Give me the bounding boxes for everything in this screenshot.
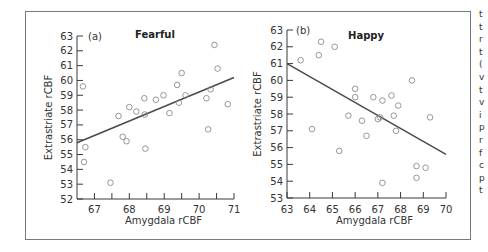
cropped-text-line: t [479,184,488,197]
y-tick-label: 58 [270,109,283,120]
cropped-text-line: t [479,46,488,59]
data-point-marker [174,82,180,88]
data-point-marker [153,97,159,103]
x-tick-label: 63 [281,204,294,215]
y-tick-label: 53 [270,193,283,204]
data-point-marker [143,146,149,152]
cropped-text-line: ( [479,58,488,71]
data-point-marker [359,118,365,124]
data-point-marker [108,180,114,186]
data-point-marker [215,66,221,72]
cropped-text-line: v [479,96,488,109]
y-tick-label: 56 [270,142,283,153]
data-point-marker [309,126,315,132]
y-tick-label: 59 [270,92,283,103]
data-point-marker [391,113,397,119]
x-tick-label: 64 [303,204,316,215]
cropped-text-line: r [479,33,488,46]
cropped-text-line: v [479,71,488,84]
x-tick-label: 67 [88,204,101,215]
data-point-marker [298,57,304,63]
regression-line [77,77,234,142]
y-tick-label: 62 [270,41,283,52]
data-point-marker [83,144,89,150]
y-tick-label: 56 [60,134,73,145]
y-tick-label: 60 [60,75,73,86]
panel-title: Fearful [135,29,175,40]
cropped-text-line: r [479,134,488,147]
y-tick-label: 61 [60,60,73,71]
x-tick-label: 67 [371,204,384,215]
regression-line [287,64,446,155]
panel-happy: 53545556575859606162636364656667686970(b… [252,25,452,227]
cropped-text-line: t [479,21,488,34]
data-point-marker [212,42,218,48]
data-point-marker [409,78,415,84]
data-point-marker [142,95,148,101]
x-axis-title: Amygdala rCBF [336,215,413,226]
y-tick-label: 60 [270,75,283,86]
y-tick-label: 54 [60,164,73,175]
y-tick-label: 61 [270,58,283,69]
data-point-marker [116,113,122,119]
y-tick-label: 57 [270,125,283,136]
x-tick-label: 70 [440,204,453,215]
data-point-marker [134,109,140,115]
cropped-text-line: p [479,121,488,134]
y-tick-label: 52 [60,194,73,205]
data-point-marker [352,94,358,100]
data-point-marker [332,44,338,50]
y-tick-label: 57 [60,119,73,130]
y-tick-label: 58 [60,105,73,116]
data-point-marker [336,148,342,154]
x-tick-label: 68 [394,204,407,215]
y-axis-title: Extrastriate rCBF [43,75,54,161]
data-point-marker [316,52,322,58]
data-point-marker [80,84,86,90]
x-tick-label: 71 [228,204,241,215]
panel-label: (a) [88,31,102,42]
data-point-marker [364,133,370,139]
data-point-marker [389,93,395,99]
data-point-marker [205,127,211,133]
data-point-marker [427,115,433,121]
x-tick-label: 66 [349,204,362,215]
y-tick-label: 54 [270,176,283,187]
cropped-text-line: i [479,109,488,122]
y-tick-label: 62 [60,45,73,56]
y-tick-label: 55 [270,159,283,170]
x-tick-label: 69 [417,204,430,215]
x-tick-label: 68 [123,204,136,215]
scatter-figure: 5253545556575859606162636768697071(a)Fea… [0,0,488,252]
data-point-marker [414,175,420,181]
y-tick-label: 55 [60,149,73,160]
data-point-marker [423,165,429,171]
x-tick-label: 69 [158,204,171,215]
data-point-marker [127,104,133,110]
data-point-marker [352,86,358,92]
y-tick-label: 53 [60,179,73,190]
data-point-marker [161,92,167,98]
x-tick-label: 70 [193,204,206,215]
cropped-text-line: p [479,172,488,185]
y-tick-label: 63 [60,31,73,42]
cropped-text-line: f [479,147,488,160]
data-point-marker [167,110,173,116]
cropped-body-text: ttrt(vtviprfcpt [479,8,488,197]
panel-label: (b) [296,25,310,36]
data-point-marker [124,138,130,144]
data-point-marker [393,128,399,134]
y-tick-label: 63 [270,25,283,36]
data-point-marker [396,103,402,109]
cropped-text-line: c [479,159,488,172]
data-point-marker [414,163,420,169]
panel-fearful: 5253545556575859606162636768697071(a)Fea… [43,29,240,226]
data-point-marker [346,113,352,119]
data-point-marker [380,180,386,186]
data-point-marker [204,95,210,101]
data-point-marker [179,70,185,76]
data-point-marker [318,39,324,45]
y-axis-title: Extrastriate rCBF [252,71,263,157]
data-point-marker [225,101,231,107]
data-point-marker [380,98,386,104]
